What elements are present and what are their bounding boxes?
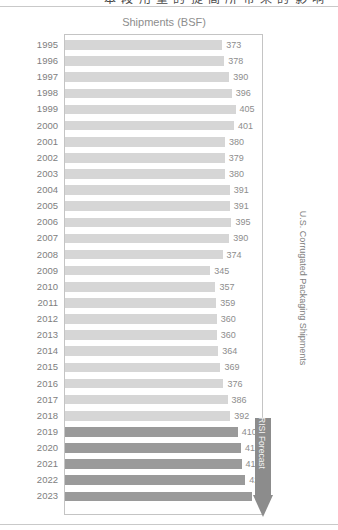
- bar-value-label: 345: [214, 263, 229, 279]
- bar-category-label: 2019: [0, 424, 58, 440]
- bar-chart: Shipments (BSF) 199537319963781997390199…: [0, 8, 338, 520]
- chart-title: Shipments (BSF): [64, 16, 264, 28]
- bar-forecast: [65, 427, 238, 437]
- bar-category-label: 2018: [0, 408, 58, 424]
- bottom-divider: [0, 524, 338, 525]
- bar-row: 2007390: [0, 230, 338, 246]
- bar-category-label: 2020: [0, 440, 58, 456]
- bar-row: 2005391: [0, 198, 338, 214]
- bar-value-label: 373: [226, 37, 241, 53]
- bar-category-label: 2017: [0, 392, 58, 408]
- bar-value-label: 401: [238, 118, 253, 134]
- bar-category-label: 2009: [0, 263, 58, 279]
- bar-category-label: 2000: [0, 118, 58, 134]
- bar-historical: [65, 363, 220, 373]
- risi-forecast-arrow: RISI Forecast: [253, 418, 273, 523]
- bar-value-label: 391: [234, 198, 249, 214]
- forecast-arrow-label: RISI Forecast: [257, 413, 267, 473]
- bar-historical: [65, 379, 223, 389]
- bar-value-label: 376: [227, 376, 242, 392]
- bar-row: 2022428: [0, 472, 338, 488]
- bar-forecast: [65, 459, 242, 469]
- bar-category-label: 2023: [0, 488, 58, 504]
- bar-row: 2010357: [0, 279, 338, 295]
- bar-category-label: 2012: [0, 311, 58, 327]
- bar-row: 2003380: [0, 166, 338, 182]
- bar-historical: [65, 137, 225, 147]
- bar-category-label: 2006: [0, 214, 58, 230]
- bar-category-label: 2008: [0, 247, 58, 263]
- top-divider: [0, 6, 338, 7]
- bar-value-label: 374: [227, 247, 242, 263]
- bar-row: 1995373: [0, 37, 338, 53]
- bar-value-label: 392: [234, 408, 249, 424]
- bar-category-label: 1997: [0, 69, 58, 85]
- bar-historical: [65, 185, 230, 195]
- bar-row: 2019410: [0, 424, 338, 440]
- bar-category-label: 2014: [0, 343, 58, 359]
- bar-value-label: 395: [235, 214, 250, 230]
- bar-forecast: [65, 475, 245, 485]
- bar-row: 2014364: [0, 343, 338, 359]
- bar-category-label: 2011: [0, 295, 58, 311]
- bar-value-label: 360: [221, 311, 236, 327]
- bar-category-label: 1999: [0, 101, 58, 117]
- bar-category-label: 2010: [0, 279, 58, 295]
- bar-row: 2020418: [0, 440, 338, 456]
- bar-value-label: 390: [233, 69, 248, 85]
- bar-historical: [65, 250, 223, 260]
- bar-historical: [65, 72, 229, 82]
- bar-row: 2023443: [0, 488, 338, 504]
- bar-historical: [65, 56, 224, 66]
- bar-historical: [65, 282, 215, 292]
- bar-row: 2009345: [0, 263, 338, 279]
- bar-historical: [65, 40, 222, 50]
- bar-value-label: 405: [240, 101, 255, 117]
- bar-category-label: 1996: [0, 53, 58, 69]
- bar-row: 2013360: [0, 327, 338, 343]
- bar-category-label: 2004: [0, 182, 58, 198]
- bar-category-label: 2003: [0, 166, 58, 182]
- bar-value-label: 360: [221, 327, 236, 343]
- bar-historical: [65, 105, 236, 115]
- bar-historical: [65, 346, 218, 356]
- bar-row: 2018392: [0, 408, 338, 424]
- bar-historical: [65, 314, 217, 324]
- bar-row: 2000401: [0, 118, 338, 134]
- bar-value-label: 378: [228, 53, 243, 69]
- bar-historical: [65, 298, 216, 308]
- bar-value-label: 396: [236, 85, 251, 101]
- bar-category-label: 2021: [0, 456, 58, 472]
- bar-value-label: 359: [220, 295, 235, 311]
- clipped-top-text: 一 一 一 一 一 一 本 段 用 量 的 提 高 所 带 来 的 影 响: [0, 0, 338, 5]
- bar-historical: [65, 395, 228, 405]
- bar-category-label: 2005: [0, 198, 58, 214]
- bar-row: 1998396: [0, 85, 338, 101]
- bar-historical: [65, 153, 225, 163]
- bar-value-label: 379: [229, 150, 244, 166]
- bar-row: 2004391: [0, 182, 338, 198]
- bar-category-label: 2015: [0, 359, 58, 375]
- bar-historical: [65, 218, 231, 228]
- bar-row: 2012360: [0, 311, 338, 327]
- bar-category-label: 2007: [0, 230, 58, 246]
- bar-historical: [65, 411, 230, 421]
- bar-value-label: 380: [229, 134, 244, 150]
- bar-value-label: 357: [219, 279, 234, 295]
- bar-value-label: 386: [232, 392, 247, 408]
- bar-forecast: [65, 492, 252, 502]
- bar-row: 1999405: [0, 101, 338, 117]
- vertical-axis-label: U.S. Corrugated Packaging Shipments: [298, 198, 308, 378]
- bar-historical: [65, 266, 210, 276]
- bar-value-label: 380: [229, 166, 244, 182]
- bar-forecast: [65, 443, 241, 453]
- bar-historical: [65, 169, 225, 179]
- bar-value-label: 390: [233, 230, 248, 246]
- bar-category-label: 1998: [0, 85, 58, 101]
- bar-category-label: 2002: [0, 150, 58, 166]
- arrow-head-icon: [253, 495, 273, 517]
- bar-row: 1997390: [0, 69, 338, 85]
- bar-value-label: 364: [222, 343, 237, 359]
- bar-row: 1996378: [0, 53, 338, 69]
- bar-category-label: 1995: [0, 37, 58, 53]
